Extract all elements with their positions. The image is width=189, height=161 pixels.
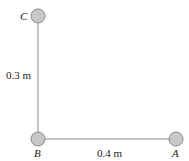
label-c: C <box>20 10 28 22</box>
label-a: A <box>171 147 179 159</box>
length-label-ba: 0.4 m <box>97 147 123 159</box>
mass-a <box>169 132 183 146</box>
mass-b <box>31 132 45 146</box>
label-b: B <box>34 147 41 159</box>
length-label-bc: 0.3 m <box>6 69 32 81</box>
mass-c <box>31 9 45 23</box>
three-mass-diagram: C B A 0.3 m 0.4 m <box>0 0 189 161</box>
